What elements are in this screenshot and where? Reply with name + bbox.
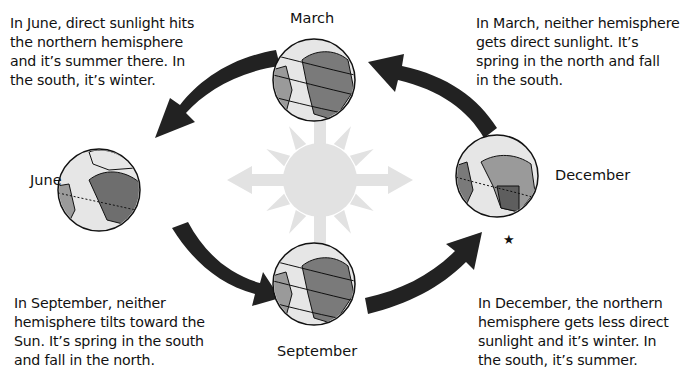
caption-june: In June, direct sunlight hits the northe… [10, 14, 210, 90]
label-march: March [290, 10, 334, 26]
caption-september: In September, neither hemisphere tilts t… [14, 294, 229, 370]
caption-december: In December, the northern hemisphere get… [478, 294, 693, 370]
label-december: December [555, 167, 630, 183]
earth-globe-icon [269, 243, 359, 325]
caption-march: In March, neither hemisphere gets direct… [476, 14, 691, 90]
earth-globe-icon [452, 135, 542, 217]
orbit-arrow-icon [365, 232, 482, 314]
star-icon: ★ [503, 232, 515, 247]
earth-globe-icon [54, 149, 144, 231]
label-september: September [277, 343, 357, 359]
earth-globe-icon [269, 39, 359, 121]
label-june: June [30, 172, 62, 188]
